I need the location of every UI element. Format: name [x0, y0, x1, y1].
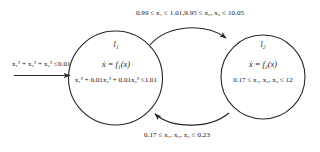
mode-dynamics-l2-text: ẋ = f₂(x) — [249, 60, 277, 69]
diagram-canvas: 0.99 ≤ x₁ ≤ 1.01,9.95 ≤ x₂, x₃ ≤ 10.05 0… — [0, 0, 320, 152]
mode-invariant-l1: x₁² + 0.01x₂² + 0.01x₃² ≤1.01 — [75, 77, 157, 84]
mode-invariant-l2-text: 0.17 ≤ x₁, x₂, x₃ ≤ 12 — [233, 76, 293, 84]
initial-condition-label: x₁² + x₂² + x₃² ≤0.01 — [12, 61, 71, 68]
mode-dynamics-l1: ẋ = f₁(x) — [102, 61, 130, 70]
mode-invariant-l1-text: x₁² + 0.01x₂² + 0.01x₃² ≤1.01 — [75, 76, 157, 84]
transition-arrow-l2-to-l1 — [155, 113, 229, 125]
transition-arrow-l1-to-l2 — [150, 28, 226, 45]
transition-guard-label-bottom: 0.17 ≤ x₁, x₂, x₃ ≤ 0.23 — [144, 132, 210, 139]
initial-condition-text: x₁² + x₂² + x₃² ≤0.01 — [12, 60, 71, 68]
mode-name-l1: l₁ — [113, 41, 118, 49]
mode-name-l2: l₂ — [260, 41, 265, 49]
mode-name-l1-text: l₁ — [113, 40, 118, 49]
guard-text-l1-to-l2: 0.99 ≤ x₁ ≤ 1.01,9.95 ≤ x₂, x₃ ≤ 10.05 — [136, 9, 244, 17]
mode-dynamics-l2: ẋ = f₂(x) — [249, 61, 277, 70]
mode-invariant-l2: 0.17 ≤ x₁, x₂, x₃ ≤ 12 — [233, 77, 293, 84]
guard-text-l2-to-l1: 0.17 ≤ x₁, x₂, x₃ ≤ 0.23 — [144, 131, 210, 139]
mode-dynamics-l1-text: ẋ = f₁(x) — [102, 60, 130, 69]
mode-name-l2-text: l₂ — [260, 40, 265, 49]
transition-guard-label-top: 0.99 ≤ x₁ ≤ 1.01,9.95 ≤ x₂, x₃ ≤ 10.05 — [136, 10, 244, 17]
